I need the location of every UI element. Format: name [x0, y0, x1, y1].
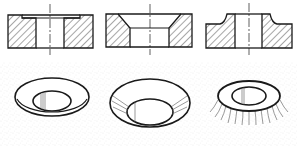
section-countersink [106, 4, 192, 55]
pictorial-countersink [110, 79, 190, 127]
diagram-canvas [0, 0, 297, 146]
section-left-wall [206, 14, 235, 48]
pictorial-counterbore [15, 78, 89, 116]
section-right-wall [169, 14, 192, 47]
section-right-wall [64, 15, 93, 48]
section-counterbore [8, 4, 93, 55]
section-boss [206, 3, 292, 55]
section-left-wall [8, 15, 36, 48]
section-left-wall [106, 14, 130, 47]
section-right-wall [262, 14, 292, 48]
